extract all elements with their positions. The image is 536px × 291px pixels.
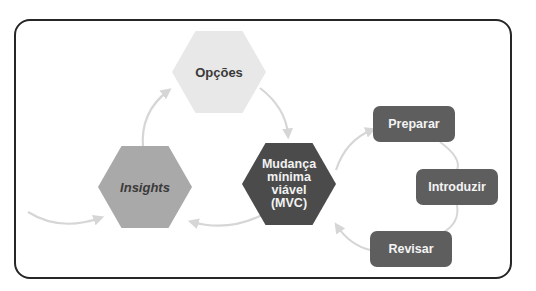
node-options-label: Opções	[195, 65, 243, 80]
step-preparar-label: Preparar	[388, 117, 439, 131]
node-mvc-line-4: (MVC)	[271, 197, 307, 210]
step-introduzir-label: Introduzir	[428, 180, 486, 194]
node-insights-label: Insights	[120, 180, 170, 195]
step-revisar-label: Revisar	[388, 242, 433, 256]
step-introduzir: Introduzir	[416, 169, 498, 205]
step-preparar: Preparar	[373, 106, 455, 142]
step-revisar: Revisar	[370, 231, 452, 267]
